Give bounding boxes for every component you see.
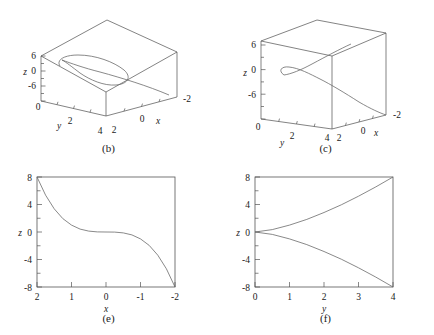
axis-label-b-y: y	[56, 121, 62, 131]
curve-c-space-curve	[281, 44, 386, 115]
tick-e-x-neg1: -1	[137, 292, 145, 302]
tick-b-y-2: 2	[68, 116, 73, 126]
axis-label-c-z: z	[242, 68, 247, 78]
caption-c: (c)	[217, 142, 434, 154]
tick-c-y-2: 2	[290, 131, 295, 141]
tick-c-z-neg6: -6	[248, 90, 256, 100]
tick-e-x-2: 2	[35, 292, 40, 302]
tick-e-z-neg4: -4	[24, 255, 32, 265]
panel-b: 6 0 -6 z 0 2 4 y 2 0 -2 x	[0, 0, 217, 167]
curve-e-cubic	[37, 177, 175, 287]
axis-label-f-z: z	[235, 228, 240, 238]
tick-e-z-0: 0	[27, 228, 32, 238]
panel-f: 8 4 0 -4 -8 z 0 1 2 3 4 y (f)	[217, 167, 434, 335]
caption-f: (f)	[217, 312, 434, 324]
tick-f-z-8: 8	[245, 173, 250, 183]
panel-c: 6 0 -6 z 0 2 4 y 2 0 -2 x	[217, 0, 434, 167]
tick-b-y-4: 4	[98, 126, 103, 136]
tick-c-z-6: 6	[251, 40, 256, 50]
tick-f-y-2: 2	[322, 292, 327, 302]
tick-b-x-2: 2	[112, 125, 117, 135]
tick-f-y-4: 4	[391, 292, 396, 302]
tick-f-y-3: 3	[356, 292, 361, 302]
figure-panel-grid: 6 0 -6 z 0 2 4 y 2 0 -2 x	[0, 0, 434, 335]
tick-e-z-neg8: -8	[24, 283, 32, 293]
axis-label-b-x: x	[155, 116, 161, 126]
tick-e-x-0: 0	[104, 292, 109, 302]
tick-f-z-0: 0	[245, 228, 250, 238]
tick-e-x-1: 1	[69, 292, 74, 302]
curve-f-upper-branch	[255, 177, 393, 232]
axis-label-b-z: z	[22, 67, 27, 77]
tick-c-y-0: 0	[256, 122, 261, 132]
tick-f-y-0: 0	[253, 292, 258, 302]
tick-b-x-0: 0	[140, 114, 145, 124]
tick-e-x-neg2: -2	[171, 292, 179, 302]
tick-c-z-0: 0	[251, 65, 256, 75]
tick-c-x-neg2: -2	[393, 110, 401, 120]
tick-f-y-1: 1	[287, 292, 292, 302]
caption-e: (e)	[0, 312, 217, 324]
tick-f-z-4: 4	[245, 200, 250, 210]
tick-b-x-neg2: -2	[183, 94, 191, 104]
tick-e-z-8: 8	[27, 173, 32, 183]
tick-f-z-neg8: -8	[242, 283, 250, 293]
curve-f-lower-branch	[255, 232, 393, 287]
tick-b-z-0: 0	[31, 66, 36, 76]
tick-f-z-neg4: -4	[242, 255, 250, 265]
panel-e: 8 4 0 -4 -8 z 2 1 0 -1 -2 x (e)	[0, 167, 217, 335]
axis-label-c-x: x	[373, 128, 379, 138]
tick-e-z-4: 4	[27, 200, 32, 210]
tick-b-z-6: 6	[31, 51, 36, 61]
caption-b: (b)	[0, 142, 217, 154]
tick-b-z-neg6: -6	[28, 81, 36, 91]
tick-c-x-0: 0	[361, 126, 366, 136]
tick-b-y-0: 0	[36, 102, 41, 112]
axis-label-e-z: z	[17, 228, 22, 238]
